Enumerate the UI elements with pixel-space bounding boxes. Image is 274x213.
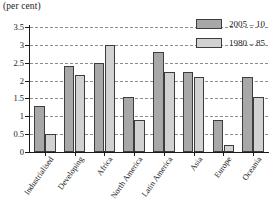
legend-swatch-icon (196, 38, 222, 48)
x-axis-tick-mark (253, 151, 254, 156)
bar (164, 72, 175, 152)
y-axis-tick-mark (25, 134, 30, 135)
y-axis-tick-label: 2.5 (0, 59, 24, 68)
bar-group (123, 27, 145, 152)
bar-group (34, 27, 56, 152)
y-axis-tick-mark (25, 27, 30, 28)
bar-chart: (per cent) 3.532.521.510.50 Industrialis… (0, 0, 274, 213)
legend-item-label: 1980 – 85 (229, 39, 265, 48)
x-axis-tick-mark (223, 151, 224, 156)
y-axis-tick-mark (25, 63, 30, 64)
bar (105, 45, 116, 152)
y-axis-tick-label: 1 (0, 112, 24, 121)
bar (75, 75, 86, 152)
x-axis-labels: IndustrialisedDevelopingAfricaNorth Amer… (30, 152, 268, 213)
bar (213, 120, 224, 152)
y-axis-labels: 3.532.521.510.50 (0, 27, 24, 152)
y-axis-tick-label: 3.5 (0, 23, 24, 32)
unit-caption: (per cent) (3, 1, 41, 11)
y-axis-tick-label: 0 (0, 148, 24, 157)
y-axis-tick-label: 2 (0, 77, 24, 86)
y-axis-tick-label: 3 (0, 41, 24, 50)
y-axis-tick-mark (25, 81, 30, 82)
y-axis-tick-mark (25, 116, 30, 117)
bar (34, 106, 45, 152)
y-axis-tick-label: 1.5 (0, 94, 24, 103)
legend-item-label: 2005 – 10 (229, 20, 265, 29)
x-axis-tick-mark (75, 151, 76, 156)
y-axis-tick-mark (25, 152, 30, 153)
y-axis-tick-mark (25, 98, 30, 99)
y-axis-tick-mark (25, 45, 30, 46)
x-axis-tick-mark (134, 151, 135, 156)
legend-item[interactable]: 1980 – 85 (196, 36, 265, 50)
legend-swatch-icon (196, 19, 222, 29)
legend-item[interactable]: 2005 – 10 (196, 17, 265, 31)
x-axis-tick-mark (164, 151, 165, 156)
bar (194, 77, 205, 152)
x-axis-tick-mark (104, 151, 105, 156)
x-axis-tick-mark (45, 151, 46, 156)
y-axis-tick-label: 0.5 (0, 130, 24, 139)
legend: 2005 – 10 1980 – 85 (196, 17, 265, 55)
x-axis-tick-mark (194, 151, 195, 156)
